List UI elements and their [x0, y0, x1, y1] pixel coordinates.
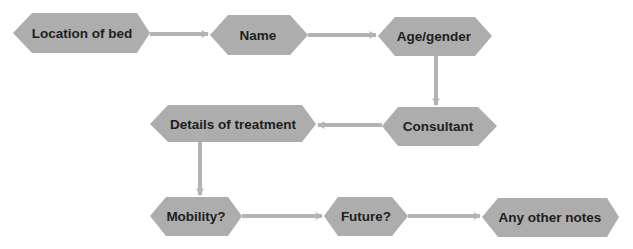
node-details-of-treatment: Details of treatment	[150, 105, 316, 142]
node-consultant: Consultant	[382, 107, 497, 146]
node-label: Mobility?	[166, 209, 225, 224]
node-label: Name	[240, 28, 277, 43]
node-label: Consultant	[403, 119, 474, 134]
node-age-gender: Age/gender	[378, 17, 492, 56]
node-any-other-notes: Any other notes	[482, 198, 619, 237]
node-label: Details of treatment	[170, 117, 297, 132]
node-mobility: Mobility?	[150, 197, 242, 236]
flow-diagram: Location of bed Name Age/gender Consulta…	[0, 0, 633, 249]
node-name: Name	[210, 15, 308, 55]
node-future: Future?	[324, 197, 408, 236]
node-label: Any other notes	[499, 210, 602, 225]
node-label: Age/gender	[397, 29, 472, 44]
node-location-of-bed: Location of bed	[13, 13, 150, 53]
node-label: Future?	[341, 209, 391, 224]
node-label: Location of bed	[32, 26, 133, 41]
